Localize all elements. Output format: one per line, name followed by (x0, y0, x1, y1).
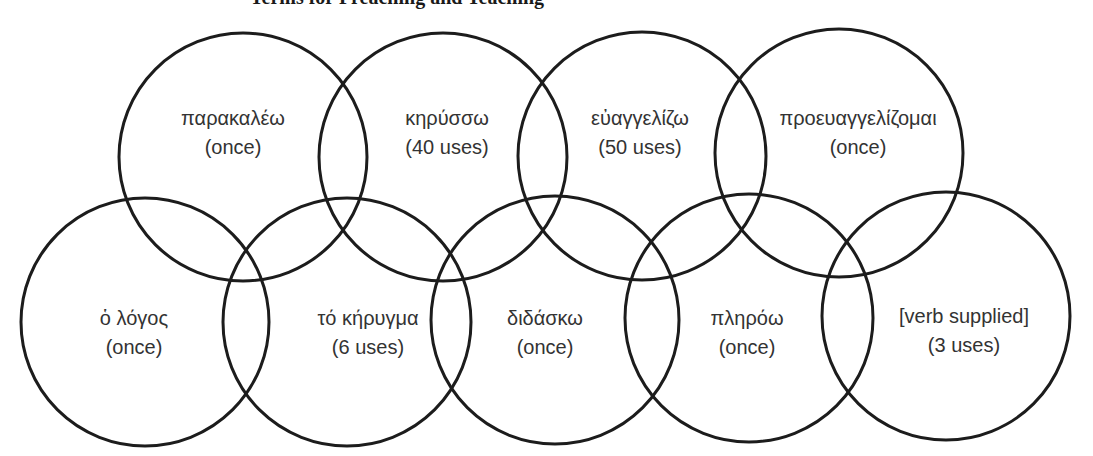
label-kerysso: κηρύσσω (40 uses) (405, 104, 489, 162)
term: διδάσκω (507, 304, 583, 333)
term: παρακαλέω (181, 104, 285, 133)
venn-diagram: Terms for Preaching and Teaching παρακαλ… (0, 0, 1093, 456)
usage-count: (40 uses) (405, 133, 489, 162)
usage-count: (once) (710, 333, 783, 362)
usage-count: (once) (181, 133, 285, 162)
term: προευαγγελίζομαι (779, 104, 936, 133)
label-to-kerygma: τό κήρυγμα (6 uses) (317, 304, 418, 362)
term: τό κήρυγμα (317, 304, 418, 333)
usage-count: (50 uses) (591, 133, 689, 162)
usage-count: (6 uses) (317, 333, 418, 362)
label-didasko: διδάσκω (once) (507, 304, 583, 362)
term: κηρύσσω (405, 104, 489, 133)
label-parakaleo: παρακαλέω (once) (181, 104, 285, 162)
label-verb-supplied: [verb supplied] (3 uses) (899, 302, 1029, 360)
label-pleroo: πληρόω (once) (710, 304, 783, 362)
label-ho-logos: ὁ λόγος (once) (100, 304, 168, 362)
usage-count: (once) (507, 333, 583, 362)
usage-count: (once) (779, 133, 936, 162)
label-proeuangelizomai: προευαγγελίζομαι (once) (779, 104, 936, 162)
term: εὐαγγελίζω (591, 104, 689, 133)
diagram-title: Terms for Preaching and Teaching (250, 0, 544, 9)
term: πληρόω (710, 304, 783, 333)
usage-count: (once) (100, 333, 168, 362)
term: ὁ λόγος (100, 304, 168, 333)
usage-count: (3 uses) (899, 331, 1029, 360)
circles-layer (0, 0, 1093, 456)
term: [verb supplied] (899, 302, 1029, 331)
label-euangelizo: εὐαγγελίζω (50 uses) (591, 104, 689, 162)
